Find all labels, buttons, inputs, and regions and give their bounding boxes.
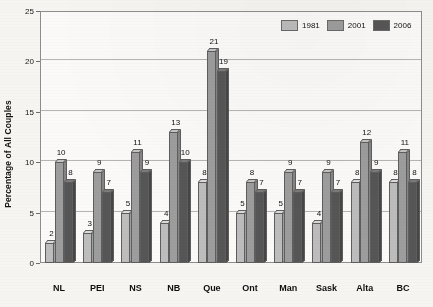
bar bbox=[45, 243, 54, 263]
bar-group: 497 bbox=[307, 11, 345, 263]
bar-group: 2108 bbox=[40, 11, 78, 263]
bar bbox=[331, 192, 340, 263]
bar-face bbox=[236, 213, 245, 263]
bar bbox=[179, 162, 188, 263]
bar bbox=[293, 192, 302, 263]
bar bbox=[207, 51, 216, 263]
bar-side-face bbox=[188, 160, 191, 263]
bar bbox=[140, 172, 149, 263]
bar-value-label: 10 bbox=[176, 149, 194, 157]
bar-value-label: 8 bbox=[62, 169, 80, 177]
bar-side-face bbox=[302, 190, 305, 263]
bar-value-label: 12 bbox=[358, 129, 376, 137]
bar-face bbox=[102, 192, 111, 263]
y-axis-tick-label: 0 bbox=[8, 259, 34, 268]
bar-value-label: 11 bbox=[128, 139, 146, 147]
bar-group: 397 bbox=[78, 11, 116, 263]
bar bbox=[370, 172, 379, 263]
legend-label: 1981 bbox=[302, 21, 320, 30]
bar bbox=[274, 213, 283, 263]
y-axis-tick-mark bbox=[36, 263, 40, 264]
bar-side-face bbox=[417, 180, 420, 263]
bar-value-label: 9 bbox=[367, 159, 385, 167]
bar-group: 8118 bbox=[384, 11, 422, 263]
y-axis-tick-label: 10 bbox=[8, 158, 34, 167]
bar-face bbox=[45, 243, 54, 263]
bar-value-label: 21 bbox=[205, 38, 223, 46]
bar-group: 82119 bbox=[193, 11, 231, 263]
bar bbox=[160, 223, 169, 263]
bar-group: 597 bbox=[269, 11, 307, 263]
y-axis-tick-label: 20 bbox=[8, 57, 34, 66]
bar bbox=[102, 192, 111, 263]
bar-value-label: 11 bbox=[396, 139, 414, 147]
legend-item: 1981 bbox=[281, 20, 320, 31]
legend-item: 2006 bbox=[373, 20, 412, 31]
bar-side-face bbox=[226, 69, 229, 263]
bar-face bbox=[64, 182, 73, 263]
x-axis-labels: NLPEINSNBQueOntManSaskAltaBC bbox=[40, 283, 422, 297]
bar-side-face bbox=[379, 170, 382, 263]
bar-value-label: 9 bbox=[319, 159, 337, 167]
bar-side-face bbox=[149, 170, 152, 263]
legend-label: 2001 bbox=[348, 21, 366, 30]
bar bbox=[131, 152, 140, 263]
y-axis-tick-label: 5 bbox=[8, 209, 34, 218]
y-axis-tick-label: 25 bbox=[8, 7, 34, 16]
bar-value-label: 9 bbox=[90, 159, 108, 167]
bar-value-label: 7 bbox=[253, 179, 271, 187]
bar-value-label: 19 bbox=[214, 58, 232, 66]
bar-side-face bbox=[264, 190, 267, 263]
bar-value-label: 8 bbox=[405, 169, 423, 177]
bar-value-label: 7 bbox=[329, 179, 347, 187]
bar-chart: Percentage of All Couples 0510152025 210… bbox=[0, 0, 433, 307]
bar-group: 41310 bbox=[155, 11, 193, 263]
bar-value-label: 13 bbox=[167, 119, 185, 127]
bar-face bbox=[131, 152, 140, 263]
bar-face bbox=[83, 233, 92, 263]
bar bbox=[236, 213, 245, 263]
bar-value-label: 8 bbox=[243, 169, 261, 177]
y-axis-tick-label: 15 bbox=[8, 108, 34, 117]
bar-side-face bbox=[340, 190, 343, 263]
legend-swatch bbox=[373, 20, 390, 31]
bar-face bbox=[217, 71, 226, 263]
chart-legend: 198120012006 bbox=[281, 20, 411, 31]
bar-value-label: 7 bbox=[100, 179, 118, 187]
bar-value-label: 7 bbox=[291, 179, 309, 187]
bar bbox=[64, 182, 73, 263]
bar bbox=[83, 233, 92, 263]
bar-face bbox=[274, 213, 283, 263]
bar-face bbox=[179, 162, 188, 263]
bar-face bbox=[198, 182, 207, 263]
bar-face bbox=[389, 182, 398, 263]
bar-face bbox=[255, 192, 264, 263]
bar bbox=[198, 182, 207, 263]
bar-value-label: 9 bbox=[281, 159, 299, 167]
bar-face bbox=[160, 223, 169, 263]
legend-swatch bbox=[281, 20, 298, 31]
bar bbox=[312, 223, 321, 263]
bar-side-face bbox=[111, 190, 114, 263]
legend-swatch bbox=[327, 20, 344, 31]
bar-face bbox=[370, 172, 379, 263]
bar bbox=[408, 182, 417, 263]
bar-value-label: 10 bbox=[52, 149, 70, 157]
bar-side-face bbox=[73, 180, 76, 263]
bar bbox=[351, 182, 360, 263]
bar bbox=[217, 71, 226, 263]
bar-value-label: 9 bbox=[138, 159, 156, 167]
bar-face bbox=[351, 182, 360, 263]
legend-label: 2006 bbox=[394, 21, 412, 30]
bar-face bbox=[293, 192, 302, 263]
bar bbox=[246, 182, 255, 263]
bar-group: 587 bbox=[231, 11, 269, 263]
x-axis-label: BC bbox=[380, 283, 426, 293]
bar bbox=[255, 192, 264, 263]
bar-face bbox=[408, 182, 417, 263]
bar-group: 5119 bbox=[116, 11, 154, 263]
bar bbox=[389, 182, 398, 263]
legend-item: 2001 bbox=[327, 20, 366, 31]
bar-face bbox=[246, 182, 255, 263]
bar bbox=[121, 213, 130, 263]
